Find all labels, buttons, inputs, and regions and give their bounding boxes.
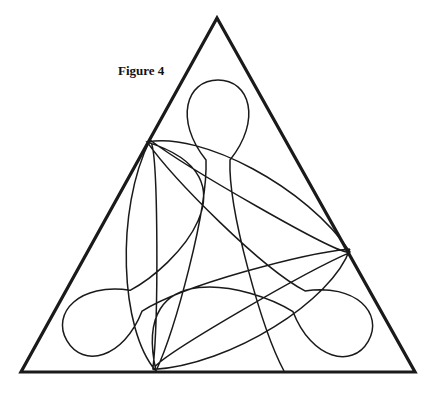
figure-canvas [0, 0, 433, 395]
three-lobed-closed-curve [62, 80, 372, 371]
triangle-outline [21, 18, 415, 372]
